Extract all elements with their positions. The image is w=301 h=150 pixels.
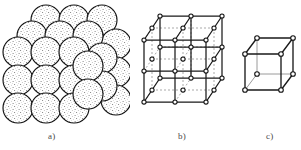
panel-c-caption: c) bbox=[235, 130, 273, 142]
sphere-layer-front bbox=[3, 37, 89, 123]
panel-sphere-packing: a) bbox=[0, 0, 130, 150]
panel-a-caption: a) bbox=[0, 130, 55, 142]
panel-b-caption: b) bbox=[130, 130, 186, 142]
panel-a-artwork bbox=[0, 0, 130, 132]
visible-edges bbox=[245, 38, 293, 90]
figure-root: a) bbox=[0, 0, 301, 150]
panel-c-artwork bbox=[235, 0, 301, 132]
hidden-edges bbox=[245, 38, 293, 90]
panel-b-artwork bbox=[130, 0, 235, 132]
unit-cell-svg bbox=[235, 0, 301, 132]
panel-unit-cell: c) bbox=[235, 0, 301, 150]
panel-lattice-cube: b) bbox=[130, 0, 235, 150]
lattice-nodes bbox=[142, 14, 224, 104]
sphere-packing-svg bbox=[0, 0, 130, 132]
lattice-cube-svg bbox=[130, 0, 235, 132]
unit-cell-nodes bbox=[243, 36, 296, 93]
sphere-stack bbox=[3, 5, 130, 123]
